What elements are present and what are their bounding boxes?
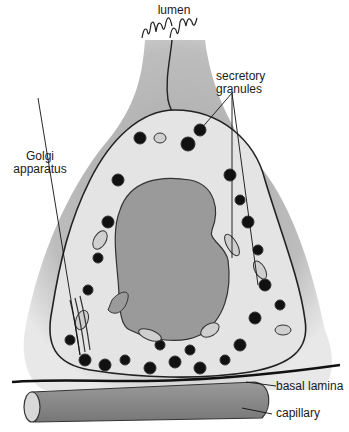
cell-diagram (0, 0, 349, 432)
label-lumen: lumen (154, 4, 194, 17)
label-secretory-granules-line2: granules (216, 83, 262, 96)
label-golgi-line2: apparatus (10, 163, 70, 176)
label-capillary: capillary (276, 407, 320, 420)
nucleus (108, 178, 229, 340)
label-basal-lamina: basal lamina (276, 380, 343, 393)
